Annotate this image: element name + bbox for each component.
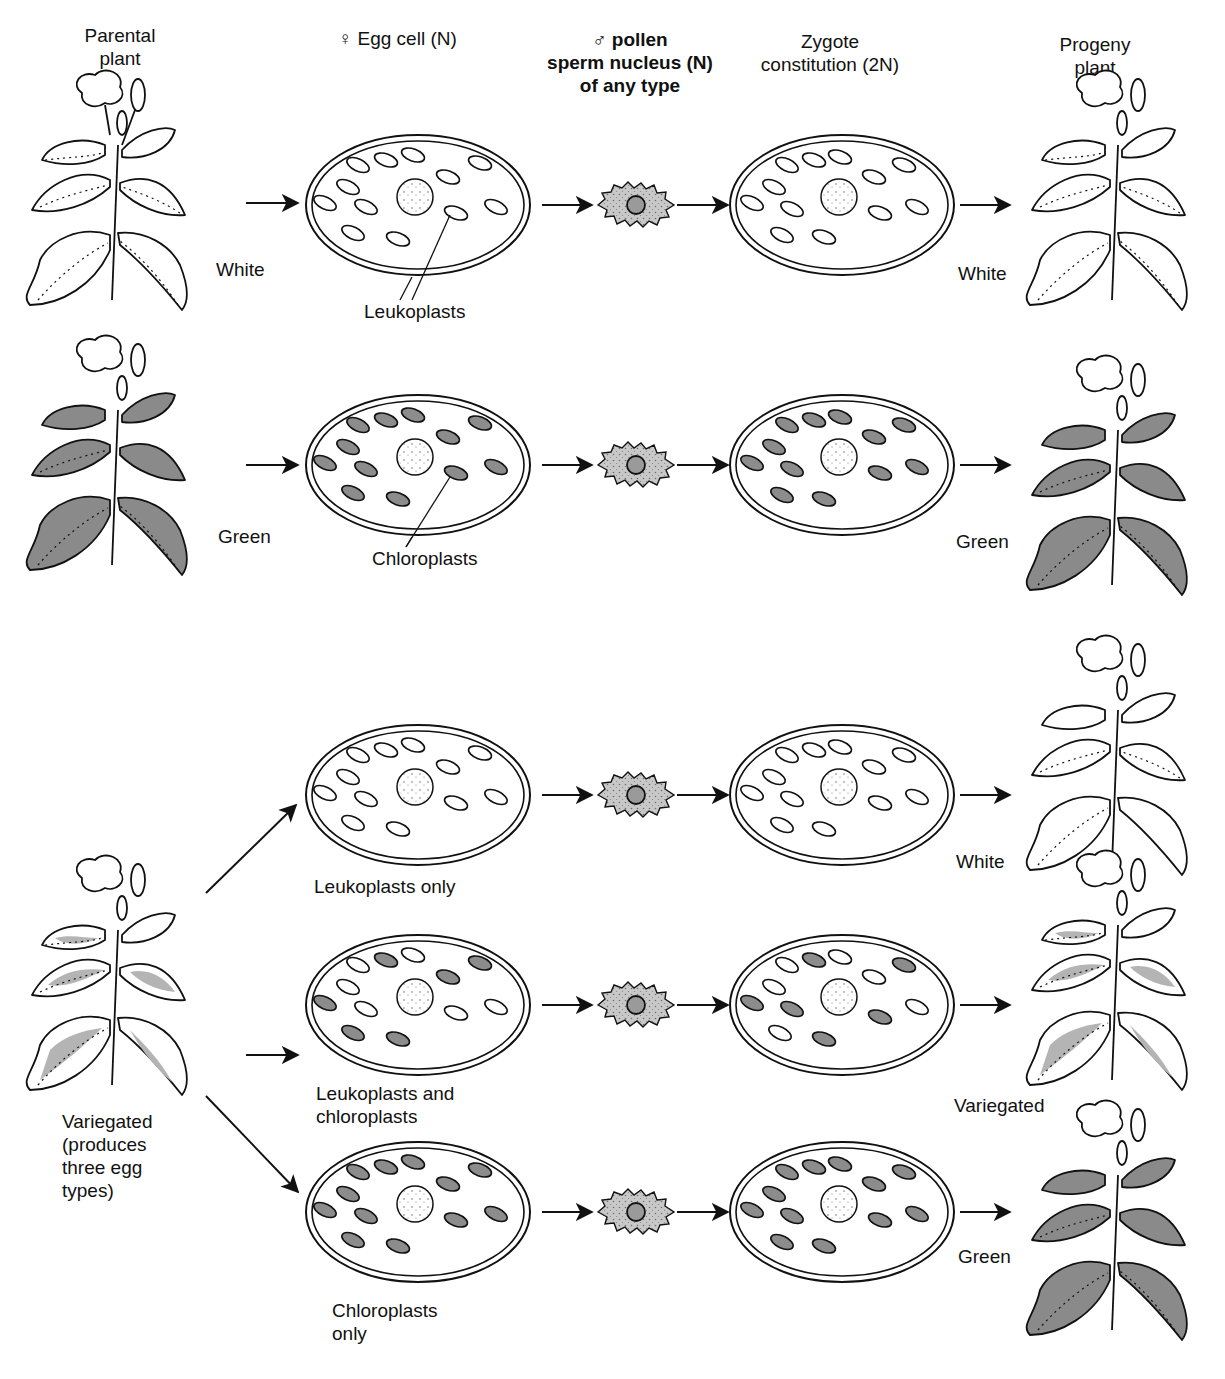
plant-white-parent-icon	[27, 71, 187, 310]
egg-cell-leukoplasts-only	[306, 725, 530, 865]
row-green	[27, 336, 1187, 595]
egg-cell-chloroplasts	[306, 395, 530, 547]
plant-green-progeny-2-icon	[1027, 1101, 1187, 1340]
zygote-chloroplasts-only	[730, 1142, 954, 1282]
pollen-icon	[598, 442, 674, 487]
diagram-drawing	[0, 0, 1225, 1379]
egg-cell-chloroplasts-only	[306, 1142, 530, 1282]
pollen-icon	[598, 1189, 674, 1234]
zygote-leukoplasts-only	[730, 725, 954, 865]
plant-white-progeny-2-icon	[1027, 636, 1187, 875]
plant-green-parent-icon	[27, 336, 187, 575]
row-white	[27, 71, 1187, 310]
egg-cell-mixed-plastids	[306, 935, 530, 1075]
plant-green-progeny-icon	[1027, 356, 1187, 595]
zygote-chloroplasts	[730, 395, 954, 535]
plant-white-progeny-icon	[1027, 71, 1187, 310]
egg-cell-leukoplasts	[306, 135, 530, 300]
arrow-to-leukoplast-egg	[206, 805, 296, 893]
pollen-icon	[598, 182, 674, 227]
pollen-icon	[598, 982, 674, 1027]
pollen-icon	[598, 772, 674, 817]
zygote-leukoplasts	[730, 135, 954, 275]
plant-variegated-progeny-icon	[1027, 851, 1187, 1090]
maternal-inheritance-diagram: Parental plant ♀ Egg cell (N) ♂ pollen s…	[0, 0, 1225, 1379]
row-variegated	[27, 636, 1187, 1340]
arrow-to-chloroplast-egg	[206, 1096, 298, 1192]
zygote-mixed-plastids	[730, 935, 954, 1075]
plant-variegated-parent-icon	[27, 856, 187, 1095]
